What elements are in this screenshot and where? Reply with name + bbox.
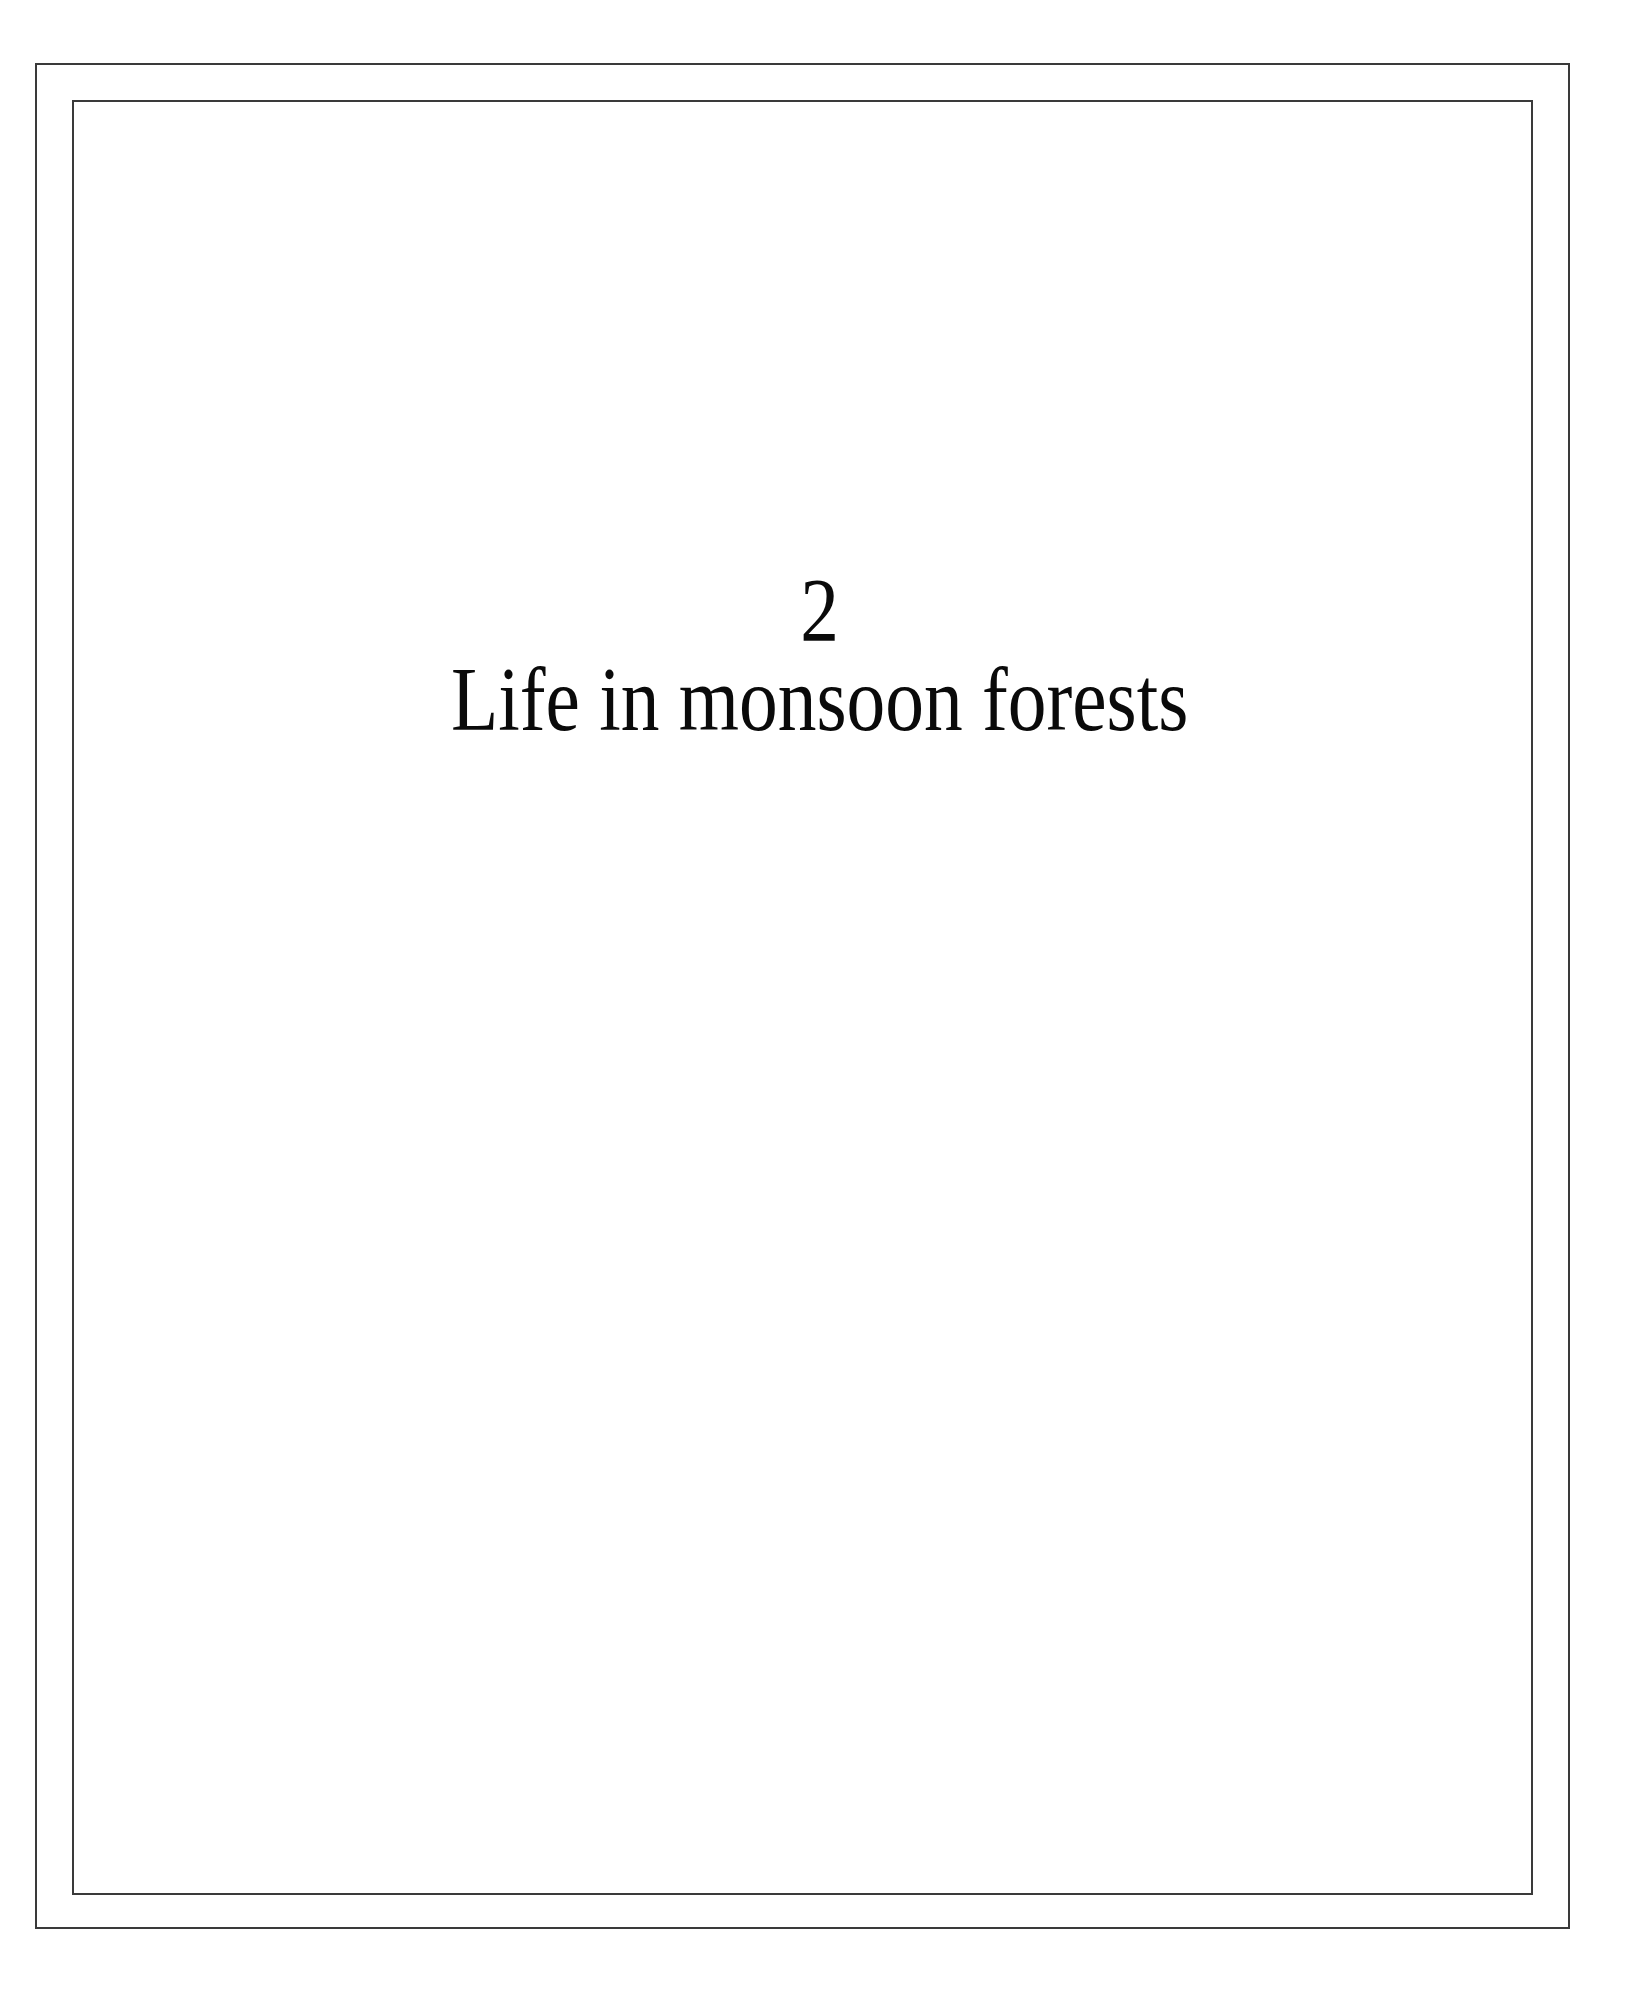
inner-page-border xyxy=(72,100,1533,1895)
chapter-title: Life in monsoon forests xyxy=(0,650,1639,750)
chapter-title-text: Life in monsoon forests xyxy=(451,650,1188,750)
chapter-number-text: 2 xyxy=(800,566,839,656)
chapter-number: 2 xyxy=(0,566,1639,656)
